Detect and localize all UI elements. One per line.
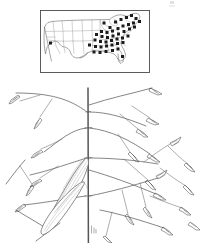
spikelet (34, 118, 42, 129)
spikelet (170, 137, 181, 146)
occurrence-dot (105, 50, 108, 53)
spikelet (30, 179, 42, 187)
occurrence-dot (127, 23, 130, 26)
leaf-blade-lower (41, 182, 84, 235)
occurrence-dot (123, 30, 126, 33)
occurrence-dot (114, 21, 117, 24)
spikelet (153, 193, 166, 200)
occurrence-dot (128, 28, 131, 31)
occurrence-dot (105, 41, 108, 44)
occurrence-dot (132, 22, 135, 25)
occurrence-dot (94, 39, 97, 42)
plate-artwork (0, 0, 207, 243)
spikelet (161, 227, 173, 235)
spikelet (9, 95, 20, 104)
occurrence-dot (88, 44, 91, 47)
occurrence-dot (94, 45, 97, 48)
occurrence-dot (111, 44, 114, 47)
occurrence-dot (122, 41, 125, 44)
spikelet (149, 88, 162, 95)
occurrence-dot (103, 22, 106, 25)
occurrence-dot (130, 14, 133, 17)
occurrence-dot (116, 38, 119, 41)
spikelet (31, 150, 43, 158)
occurrence-dot (111, 30, 114, 33)
occurrence-dot (95, 33, 98, 36)
occurrence-dot (121, 55, 124, 58)
occurrence-dot (100, 46, 103, 49)
occurrence-dot (106, 36, 109, 39)
occurrence-dot (125, 16, 128, 19)
occurrence-dot (110, 39, 113, 42)
occurrence-dot (133, 26, 136, 29)
spikelet (103, 236, 112, 243)
occurrence-dot (111, 49, 114, 52)
occurrence-dot (120, 18, 123, 21)
spikelet (156, 170, 167, 179)
occurrence-dot (109, 26, 112, 29)
scale-mark (92, 226, 97, 233)
spikelet (143, 207, 152, 218)
occurrence-dot (116, 42, 119, 45)
spikelet (146, 118, 159, 125)
occurrence-dot (93, 51, 96, 54)
spikelets-right (103, 88, 200, 243)
occurrence-dot (49, 42, 52, 45)
occurrence-dot (135, 17, 138, 20)
spikelet (184, 163, 195, 172)
spikelet (136, 129, 148, 137)
occurrence-dot (117, 48, 120, 51)
botanical-plate (0, 0, 207, 243)
occurrence-dot (138, 20, 141, 23)
plant-illustration (6, 88, 200, 243)
spikelet (125, 214, 134, 225)
occurrence-dot (101, 35, 104, 38)
occurrence-dot (112, 35, 115, 38)
scan-artifact (169, 1, 175, 7)
occurrence-dot (105, 45, 108, 48)
occurrence-dot (117, 33, 120, 36)
spikelet (183, 185, 194, 195)
distribution-map (41, 11, 150, 73)
spikelets-left (9, 95, 43, 212)
occurrence-dot (99, 40, 102, 43)
occurrence-dot (106, 31, 109, 34)
occurrence-dot (117, 27, 120, 30)
occurrence-dot (122, 25, 125, 28)
occurrence-dot (127, 35, 130, 38)
occurrence-dot (99, 51, 102, 54)
spikelet (188, 222, 200, 230)
occurrence-dot (121, 37, 124, 40)
spikelet (179, 207, 191, 215)
occurrence-dot (100, 30, 103, 33)
